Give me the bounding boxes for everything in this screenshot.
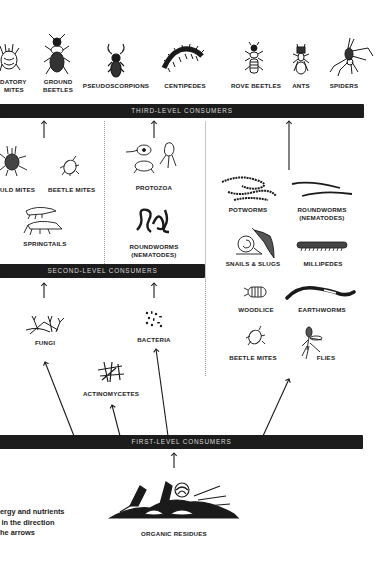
arrow-to-actinomycetes <box>112 405 120 436</box>
label-organic-residues: ORGANIC RESIDUES <box>136 530 212 538</box>
earthworm-icon <box>284 282 356 306</box>
arrow-to-right-column <box>263 379 289 436</box>
ground-beetle-icon <box>44 34 70 80</box>
label-rove-beetles: ROVE BEETLES <box>226 82 286 90</box>
woodlouse-icon <box>244 285 268 303</box>
label-fungi: FUNGI <box>32 339 58 347</box>
label-springtails: SPRINGTAILS <box>20 240 70 248</box>
label-mold-mites: ULD MITES <box>0 186 35 194</box>
snail-slug-icon <box>234 226 278 264</box>
label-snails-slugs: SNAILS & SLUGS <box>224 260 282 268</box>
protozoa-icon <box>124 140 186 182</box>
band-label: SECOND-LEVEL CONSUMERS <box>47 267 157 274</box>
spider-icon <box>328 36 374 80</box>
label-roundworms-right: ROUNDWORMS (NEMATODES) <box>294 206 350 222</box>
beetle-mite-icon <box>60 156 80 180</box>
label-beetle-mites: BEETLE MITES <box>48 186 94 194</box>
actinomycetes-icon <box>96 360 126 388</box>
label-predatory-mites: DATORY MITES <box>0 78 27 94</box>
roundworm-icon <box>290 178 354 204</box>
mold-mite-icon <box>0 144 28 180</box>
label-roundworms-middle: ROUNDWORMS (NEMATODES) <box>124 243 184 259</box>
band-label: THIRD-LEVEL CONSUMERS <box>131 107 232 114</box>
third-level-consumers-band: THIRD-LEVEL CONSUMERS <box>0 104 364 118</box>
label-millipedes: MILLIPEDES <box>298 260 348 268</box>
label-woodlice: WOODLICE <box>236 306 276 314</box>
beetle-mite-icon <box>246 326 266 350</box>
pseudoscorpion-icon <box>104 42 128 82</box>
label-centipedes: CENTIPEDES <box>160 82 210 90</box>
organic-residues-icon <box>110 476 242 526</box>
centipede-icon <box>162 42 204 78</box>
ant-icon <box>292 42 310 82</box>
rove-beetle-icon <box>244 42 264 82</box>
column-divider <box>104 121 105 264</box>
arrow-to-fungi <box>45 362 74 436</box>
label-ground-beetles: GROUND BEETLES <box>43 78 73 94</box>
band-label: FIRST-LEVEL CONSUMERS <box>131 438 231 445</box>
first-level-consumers-band: FIRST-LEVEL CONSUMERS <box>0 435 363 449</box>
second-level-consumers-band: SECOND-LEVEL CONSUMERS <box>0 264 205 278</box>
label-protozoa: PROTOZOA <box>134 184 174 192</box>
label-spiders: SPIDERS <box>324 82 364 90</box>
label-beetle-mites-right: BEETLE MITES <box>228 354 278 362</box>
label-earthworms: EARTHWORMS <box>296 306 348 314</box>
bacteria-icon <box>144 310 164 334</box>
label-actinomycetes: ACTINOMYCETES <box>76 390 146 398</box>
label-flies: FLIES <box>314 354 338 362</box>
fungi-icon <box>24 310 68 340</box>
potworm-icon <box>220 174 278 206</box>
roundworm-icon <box>135 206 175 238</box>
springtail-icon <box>22 205 66 239</box>
arrow-to-bacteria <box>156 349 168 436</box>
millipede-icon <box>296 238 348 256</box>
predatory-mite-icon <box>0 38 22 78</box>
column-divider <box>205 281 206 376</box>
label-potworms: POTWORMS <box>228 206 268 214</box>
label-pseudoscorpions: PSEUDOSCORPIONS <box>82 82 150 90</box>
label-bacteria: BACTERIA <box>134 336 174 344</box>
label-ants: ANTS <box>290 82 312 90</box>
column-divider <box>205 121 206 281</box>
flow-direction-note: ergy and nutrients in the direction he a… <box>0 507 64 539</box>
